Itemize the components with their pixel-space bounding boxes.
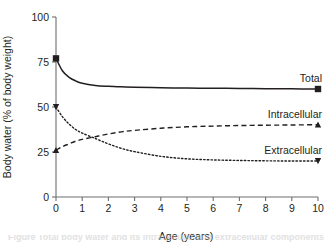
x-axis-tick-label: 4 [158,202,164,214]
x-axis-tick-label: 3 [132,202,138,214]
x-axis-tick-label: 1 [79,202,85,214]
series-label-extracellular: Extracellular [264,144,322,156]
x-axis-tick-label: 8 [263,202,269,214]
y-axis-title: Body water (% of body weight) [1,36,13,178]
y-axis-tick-label: 75 [37,56,49,68]
body-water-line-chart: 0255075100 012345678910 TotalIntracellul… [0,0,333,244]
series-labels: TotalIntracellularExtracellular [264,72,322,156]
series-label-total: Total [300,72,322,84]
x-axis-tick-label: 0 [53,202,59,214]
series-start-marker-intracellular [53,147,59,153]
x-axis-tick-label: 9 [289,202,295,214]
x-axis-tick-label: 5 [184,202,190,214]
y-axis-tick-label: 0 [43,191,49,203]
figure-caption-strip: Figure Total body water and its intracel… [0,235,333,244]
x-axis-tick-label: 10 [312,202,324,214]
series-start-marker-total [53,55,59,61]
y-axis: 0255075100 [31,11,56,203]
figure-container: 0255075100 012345678910 TotalIntracellul… [0,0,333,244]
x-axis: 012345678910 [53,197,324,214]
series-label-intracellular: Intracellular [268,108,323,120]
x-axis-tick-label: 7 [236,202,242,214]
y-axis-tick-label: 25 [37,146,49,158]
figure-caption-text: Figure Total body water and its intracel… [8,235,328,242]
y-axis-tick-label: 100 [31,11,49,23]
x-axis-tick-label: 2 [105,202,111,214]
series-end-marker-total [315,86,321,92]
x-axis-tick-label: 6 [210,202,216,214]
y-axis-tick-label: 50 [37,101,49,113]
series-line-total [56,58,318,89]
